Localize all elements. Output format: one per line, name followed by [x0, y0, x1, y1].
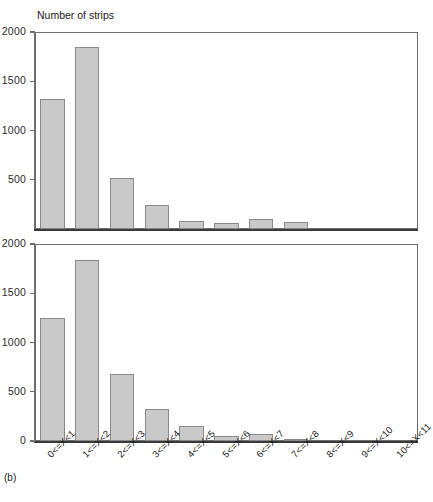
y-tick-label: 0	[0, 434, 26, 446]
y-tick-label: 1500	[0, 286, 26, 298]
y-tick-label: 500	[0, 385, 26, 397]
y-tick-label: 500	[0, 173, 26, 185]
y-tick-label: 1000	[0, 124, 26, 136]
bar	[214, 223, 238, 229]
top-bar-group	[35, 32, 418, 229]
bar	[249, 219, 273, 229]
y-tick-label: 2000	[0, 237, 26, 249]
bar	[75, 260, 99, 441]
top-x-axis-baseline	[34, 229, 418, 231]
x-category-label-group: 0<=X<11<=X<22<=X<33<=X<44<=X<55<=X<66<=X…	[0, 446, 430, 502]
y-tick-label: 1500	[0, 74, 26, 86]
bar	[75, 47, 99, 229]
bar	[110, 178, 134, 229]
bar	[40, 318, 64, 441]
top-histogram-panel: Number of strips 500100015002000	[0, 0, 430, 236]
y-tick-label: 1000	[0, 336, 26, 348]
bottom-bar-group	[35, 244, 418, 441]
bar	[145, 205, 169, 229]
bar	[179, 221, 203, 229]
y-tick-label: 2000	[0, 25, 26, 37]
axis-title: Number of strips	[37, 9, 114, 21]
bar	[110, 374, 134, 441]
bar	[284, 222, 308, 229]
bar	[40, 99, 64, 229]
bottom-histogram-panel: 0500100015002000 (b) 0<=X<11<=X<22<=X<33…	[0, 236, 430, 502]
